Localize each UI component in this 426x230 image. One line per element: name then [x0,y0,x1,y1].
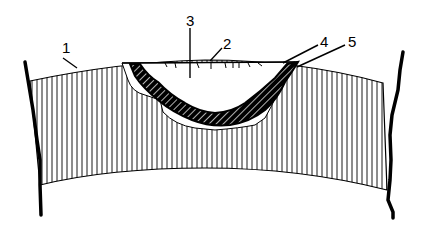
right-boundary [388,52,403,218]
label-3: 3 [186,13,194,28]
cross-section-diagram [0,0,426,230]
leader-1 [63,58,77,68]
label-4: 4 [320,34,328,49]
leader-2 [210,48,222,61]
label-5: 5 [348,34,356,49]
label-2: 2 [223,36,231,51]
surface-line-2 [122,62,298,63]
label-1: 1 [62,40,70,55]
